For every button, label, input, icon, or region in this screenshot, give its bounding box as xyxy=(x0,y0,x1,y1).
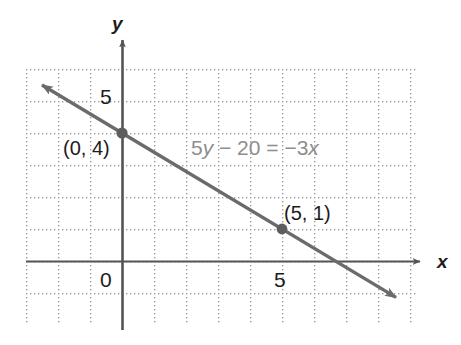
coordinate-plane-svg xyxy=(0,0,461,345)
equation-middle: − 20 = −3 xyxy=(213,136,308,159)
point-0-4 xyxy=(116,127,127,138)
equation-variable-x: x xyxy=(308,136,319,159)
y-axis-label: y xyxy=(112,14,123,33)
x-tick-label-5: 5 xyxy=(274,269,286,290)
point-label-5-1: (5, 1) xyxy=(284,203,331,223)
graph-figure: y x 5 0 5 (0, 4) (5, 1) 5y − 20 = −3x xyxy=(0,0,461,345)
equation-coefficient: 5 xyxy=(191,136,203,159)
x-tick-label-0: 0 xyxy=(100,269,112,290)
point-label-0-4: (0, 4) xyxy=(63,138,110,158)
y-tick-label-5: 5 xyxy=(100,86,112,107)
equation-annotation: 5y − 20 = −3x xyxy=(191,137,319,158)
point-5-1 xyxy=(277,224,288,235)
equation-variable-y: y xyxy=(203,136,214,159)
grid-dots xyxy=(26,68,416,324)
x-axis-label: x xyxy=(437,252,448,271)
